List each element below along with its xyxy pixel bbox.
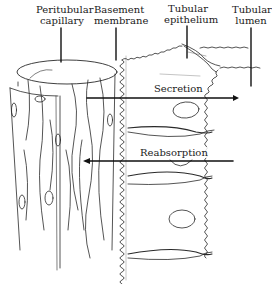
peritubular-capillary-label: Peritubular capillary bbox=[36, 4, 88, 26]
tubular-lumen-label-line2: lumen bbox=[232, 15, 270, 26]
tubular-epithelium-label: Tubular epithelium bbox=[164, 3, 212, 25]
secretion-arrow bbox=[87, 95, 239, 101]
nephron-tubule-diagram bbox=[0, 0, 272, 284]
peritubular-capillary-drawing bbox=[10, 60, 117, 270]
secretion-label: Secretion bbox=[153, 83, 204, 94]
epithelium-top-surface bbox=[122, 44, 260, 76]
basement-membrane-label-line2: membrane bbox=[94, 15, 142, 26]
tubular-lumen-label-line1: Tubular bbox=[232, 4, 270, 15]
peritubular-capillary-label-line2: capillary bbox=[36, 15, 88, 26]
tubular-epithelium-label-line1: Tubular bbox=[164, 3, 212, 14]
tubular-epithelium-label-line2: epithelium bbox=[164, 14, 212, 25]
peritubular-capillary-label-line1: Peritubular bbox=[36, 4, 88, 15]
nuclei bbox=[169, 101, 200, 228]
reabsorption-arrow bbox=[83, 158, 233, 164]
basement-membrane-drawing bbox=[120, 56, 126, 284]
basement-membrane-label-line1: Basement bbox=[94, 4, 142, 15]
tubular-lumen-label: Tubular lumen bbox=[232, 4, 270, 26]
reabsorption-label: Reabsorption bbox=[139, 147, 209, 158]
basement-membrane-label: Basement membrane bbox=[94, 4, 142, 26]
label-leader-lines bbox=[61, 26, 251, 86]
